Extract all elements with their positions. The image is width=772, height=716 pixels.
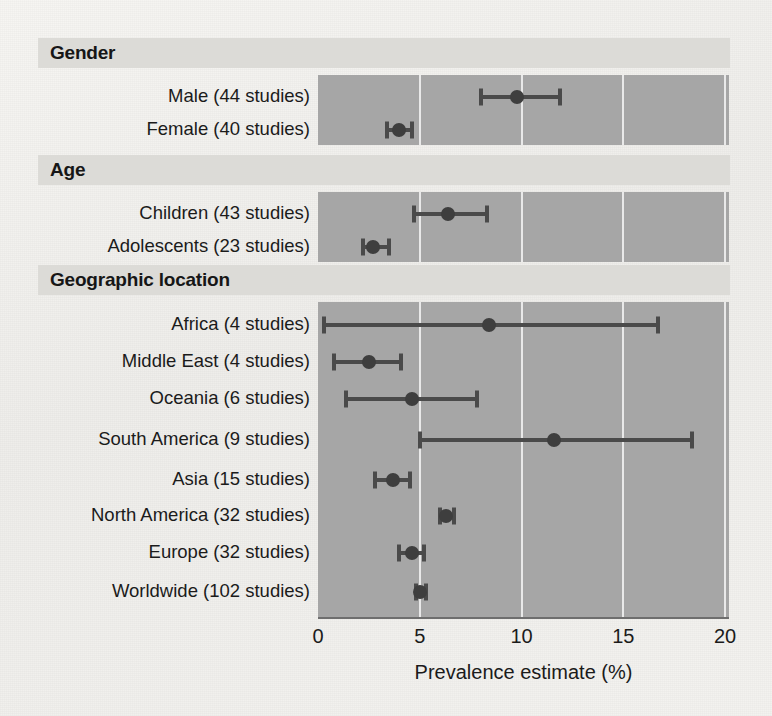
gridline-10 [521,75,523,145]
section-band-0 [38,38,730,68]
ci-cap-high-2-0 [656,317,660,334]
ci-cap-low-0-0 [479,89,483,106]
estimate-point-2-2 [405,392,419,406]
forest-plot-figure: GenderMale (44 studies)Female (40 studie… [0,0,772,716]
row-label-1-1: Adolescents (23 studies) [0,235,310,257]
estimate-point-0-0 [510,90,524,104]
gridline-20 [724,75,726,145]
plot-panel-2 [318,302,729,617]
estimate-point-1-0 [441,207,455,221]
ci-cap-low-0-1 [385,122,389,139]
estimate-point-2-5 [439,509,453,523]
x-tick-15: 15 [612,625,634,648]
estimate-point-2-6 [405,546,419,560]
section-header-1: Gender [50,42,115,64]
ci-cap-low-2-0 [322,317,326,334]
ci-cap-low-2-3 [418,432,422,449]
ci-cap-low-2-6 [397,545,401,562]
row-label-2-4: Asia (15 studies) [0,468,310,490]
ci-cap-high-2-6 [422,545,426,562]
row-label-1-0: Children (43 studies) [0,202,310,224]
gridline-20 [724,192,726,262]
estimate-point-2-4 [386,473,400,487]
row-label-0-0: Male (44 studies) [0,85,310,107]
gridline-10 [521,192,523,262]
ci-cap-high-1-1 [387,239,391,256]
gridline-5 [419,75,421,145]
section-header-3: Geographic location [50,269,230,291]
ci-cap-low-1-1 [361,239,365,256]
plot-panel-0 [318,75,729,145]
gridline-5 [419,192,421,262]
ci-cap-high-0-0 [558,89,562,106]
row-label-2-5: North America (32 studies) [0,504,310,526]
x-tick-5: 5 [414,625,425,648]
ci-cap-low-1-0 [412,206,416,223]
ci-cap-low-2-4 [373,472,377,489]
gridline-15 [622,192,624,262]
estimate-point-2-7 [413,585,427,599]
estimate-point-2-0 [482,318,496,332]
ci-cap-high-2-1 [399,354,403,371]
ci-cap-high-2-4 [408,472,412,489]
gridline-20 [724,302,726,617]
ci-cap-high-2-2 [475,391,479,408]
ci-cap-low-2-2 [344,391,348,408]
estimate-point-0-1 [392,123,406,137]
row-label-2-6: Europe (32 studies) [0,541,310,563]
x-tick-20: 20 [714,625,736,648]
estimate-point-2-1 [362,355,376,369]
row-label-2-2: Oceania (6 studies) [0,387,310,409]
ci-cap-low-2-1 [332,354,336,371]
row-label-0-1: Female (40 studies) [0,118,310,140]
row-label-2-1: Middle East (4 studies) [0,350,310,372]
gridline-10 [521,302,523,617]
row-label-2-7: Worldwide (102 studies) [0,580,310,602]
ci-cap-high-0-1 [410,122,414,139]
row-label-2-3: South America (9 studies) [0,428,310,450]
gridline-5 [419,302,421,617]
ci-cap-high-1-0 [485,206,489,223]
ci-cap-high-2-3 [690,432,694,449]
gridline-15 [622,75,624,145]
x-tick-0: 0 [312,625,323,648]
x-tick-10: 10 [510,625,532,648]
section-header-2: Age [50,159,85,181]
estimate-point-2-3 [547,433,561,447]
plot-panel-1 [318,192,729,262]
section-band-1 [38,155,730,185]
x-axis-title: Prevalence estimate (%) [415,661,633,684]
gridline-15 [622,302,624,617]
row-label-2-0: Africa (4 studies) [0,313,310,335]
estimate-point-1-1 [366,240,380,254]
x-axis-line [318,617,729,619]
